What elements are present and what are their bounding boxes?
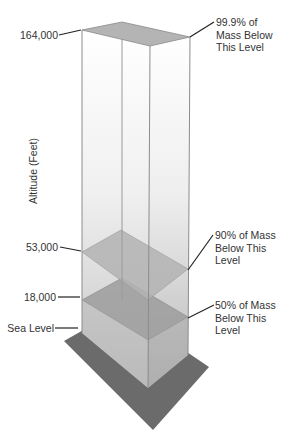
leader-line-53000: [60, 247, 81, 251]
annotation-line: This Level: [216, 41, 285, 54]
annotation-50-percent: 50% of Mass Below This Level: [215, 299, 285, 337]
annotation-90-percent: 90% of Mass Below This Level: [215, 229, 285, 267]
annotation-line: Mass Below: [216, 29, 285, 42]
altitude-label-18000: 18,000: [4, 291, 56, 303]
annotation-line: 99.9% of: [216, 16, 285, 29]
annotation-line: Level: [215, 254, 285, 267]
annotation-99-9-percent: 99.9% of Mass Below This Level: [216, 16, 285, 54]
leader-line-90: [188, 235, 213, 270]
altitude-label-53000: 53,000: [6, 241, 58, 253]
leader-line-99-9: [190, 22, 214, 37]
annotation-line: Below This: [215, 242, 285, 255]
leader-line-50: [188, 305, 214, 318]
annotation-line: 90% of Mass: [215, 229, 285, 242]
axis-title-altitude: Altitude (Feet): [27, 138, 39, 204]
altitude-label-164000: 164,000: [6, 29, 58, 41]
annotation-line: Level: [215, 324, 285, 337]
altitude-label-sea-level: Sea Level: [0, 322, 54, 334]
atmosphere-mass-column-diagram: [0, 0, 285, 433]
leader-line-164000: [59, 30, 81, 35]
annotation-line: 50% of Mass: [215, 299, 285, 312]
annotation-line: Below This: [215, 312, 285, 325]
